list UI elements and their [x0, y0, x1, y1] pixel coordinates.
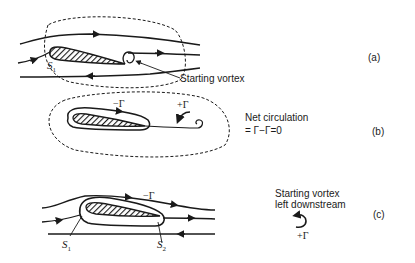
airfoil-b [73, 114, 145, 127]
minus-gamma-label-c: −Γ [143, 190, 154, 201]
stagnation-point-s1-c: S1 [62, 239, 71, 255]
left-vortex-line1: Starting vortex [275, 188, 339, 199]
streamline-a-top [20, 34, 200, 45]
starting-vortex-label: Starting vortex [180, 73, 244, 84]
panel-label-c: (c) [373, 209, 385, 220]
trailing-vortex-a [123, 52, 134, 64]
airfoil-c [86, 203, 160, 217]
panel-c [42, 196, 306, 243]
net-circulation-line1: Net circulation [245, 112, 308, 123]
panel-b [49, 92, 229, 157]
net-circulation-line2: = Γ−Γ=0 [245, 125, 282, 136]
stagnation-point-s2-c: S2 [157, 239, 166, 255]
airfoil-a [50, 47, 125, 64]
panel-a [18, 17, 200, 88]
starting-vortex-c-icon [296, 215, 306, 227]
panel-label-b: (b) [372, 126, 384, 137]
minus-gamma-label-b: −Γ [113, 98, 124, 109]
airfoil-circulation-diagram [0, 0, 415, 263]
plus-gamma-label-b: +Γ [177, 99, 188, 110]
wake-line-b [145, 120, 202, 128]
panel-label-a: (a) [368, 52, 380, 63]
plus-gamma-arrow-b [178, 112, 190, 121]
plus-gamma-label-c: +Γ [297, 230, 308, 241]
stagnation-point-s1-a: S1 [47, 60, 56, 76]
left-vortex-line2: left downstream [275, 199, 346, 210]
